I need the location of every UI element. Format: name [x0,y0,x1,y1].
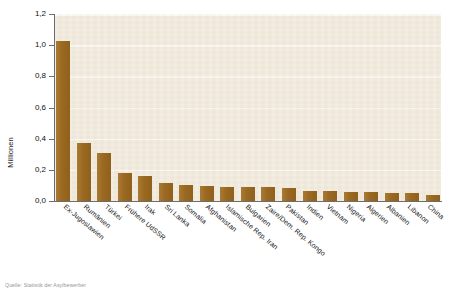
bar [97,153,111,201]
bar [138,176,152,201]
bar [159,183,173,201]
y-axis-tick [49,108,54,109]
bar [241,187,255,201]
bar-chart-figure: Millionen 1,21,00,80,60,40,20,0 Ex-Jugos… [0,0,450,289]
y-axis-tick [49,14,54,15]
bar [282,188,296,201]
plot-area [55,14,441,201]
y-axis-tick-label: 0,6 [0,103,46,112]
bar [426,195,440,201]
bar [405,193,419,201]
bar-series [55,14,441,201]
bar [364,192,378,201]
bar [323,191,337,201]
y-axis-tick-label: 0,4 [0,134,46,143]
y-axis-tick-label: 0,8 [0,71,46,80]
bar [344,192,358,201]
x-axis-tick-labels: Ex-JugoslawienRumänienTürkeiFrühere UdSS… [55,203,441,273]
bar [385,193,399,201]
bar [77,143,91,201]
y-axis-tick [49,45,54,46]
y-axis-tick-label: 1,0 [0,40,46,49]
y-axis-title: Millionen [6,118,15,188]
y-axis-tick [49,76,54,77]
y-axis-tick [49,139,54,140]
bar [56,41,70,202]
y-axis-tick-label: 0,0 [0,196,46,205]
bar [179,185,193,201]
y-axis-tick-label: 0,2 [0,165,46,174]
y-axis-tick-label: 1,2 [0,9,46,18]
source-footnote: Quelle: Statistik der Asylbewerber [5,282,86,288]
bar [220,187,234,201]
x-axis-tick-label: Irak [143,203,157,216]
bar [118,173,132,201]
bar [261,187,275,201]
y-axis-tick [49,170,54,171]
bar [200,186,214,201]
x-axis-line [54,201,442,202]
bar [303,191,317,201]
